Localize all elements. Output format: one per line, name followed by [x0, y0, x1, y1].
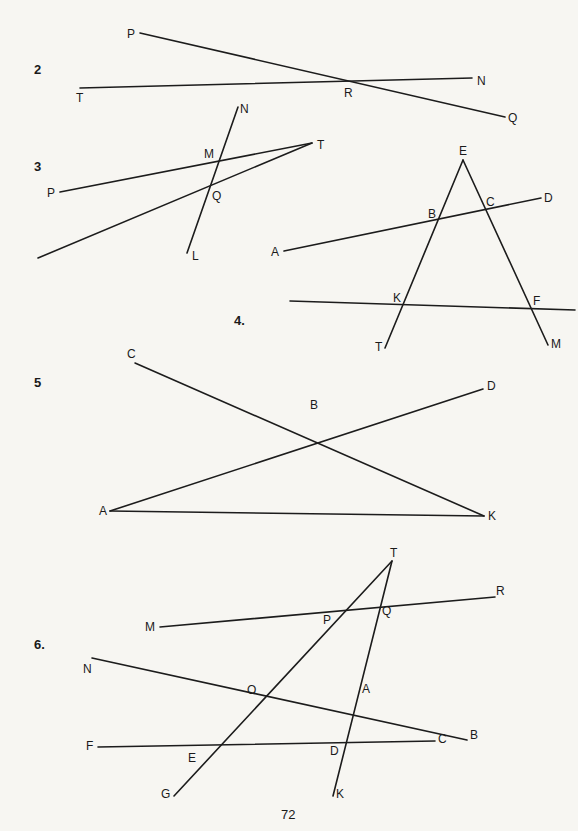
point-label: K [393, 292, 401, 304]
problem-number: 4. [234, 314, 245, 327]
line-AK [110, 511, 484, 516]
point-label: M [551, 338, 561, 350]
page-number: 72 [281, 807, 295, 822]
point-label: Q [212, 190, 221, 202]
point-label: Q [382, 605, 391, 617]
line-PQ [140, 33, 505, 117]
point-label: E [459, 145, 467, 157]
line-TX [38, 143, 312, 258]
point-label: K [488, 510, 496, 522]
line-EM [463, 160, 548, 345]
point-label: R [344, 87, 353, 99]
problem-number: 5 [34, 376, 41, 389]
line-TN [80, 78, 472, 88]
point-label: B [470, 729, 478, 741]
point-label: K [336, 788, 344, 800]
line-PT [60, 143, 312, 192]
point-label: E [188, 752, 196, 764]
diagram-4 [284, 160, 575, 348]
problem-number: 6. [34, 638, 45, 651]
line-AD [110, 389, 483, 511]
point-label: B [310, 399, 318, 411]
point-label: R [496, 585, 505, 597]
point-label: N [477, 75, 486, 87]
point-label: T [390, 547, 397, 559]
point-label: A [362, 683, 370, 695]
point-label: N [240, 103, 249, 115]
line-CK [135, 363, 484, 516]
point-label: A [271, 246, 279, 258]
point-label: P [127, 28, 135, 40]
line-NB [92, 658, 467, 740]
diagram-5 [110, 363, 484, 516]
point-label: C [438, 733, 447, 745]
point-label: D [544, 192, 553, 204]
point-label: N [83, 663, 92, 675]
point-label: C [127, 348, 136, 360]
line-ET [385, 160, 463, 348]
point-label: T [317, 139, 324, 151]
point-label: P [323, 614, 331, 626]
point-label: T [76, 92, 83, 104]
point-label: F [86, 740, 93, 752]
line-AD [284, 198, 541, 251]
diagram-3 [38, 107, 312, 258]
diagram-2 [80, 33, 505, 117]
point-label: D [330, 745, 339, 757]
point-label: T [375, 341, 382, 353]
line-FC [98, 741, 435, 747]
point-label: P [47, 187, 55, 199]
point-label: M [204, 148, 214, 160]
problem-number: 2 [34, 63, 41, 76]
point-label: M [145, 621, 155, 633]
diagram-6 [92, 561, 495, 796]
line-NL [187, 107, 238, 253]
problem-number: 3 [34, 160, 41, 173]
point-label: C [486, 196, 495, 208]
point-label: F [533, 295, 540, 307]
point-label: L [192, 250, 199, 262]
point-label: Q [508, 112, 517, 124]
point-label: B [428, 208, 436, 220]
point-label: D [487, 380, 496, 392]
line-TK [333, 561, 392, 796]
line-TG [174, 561, 392, 796]
point-label: G [161, 788, 170, 800]
point-label: O [247, 684, 256, 696]
point-label: A [99, 505, 107, 517]
geometry-diagrams [0, 0, 578, 831]
